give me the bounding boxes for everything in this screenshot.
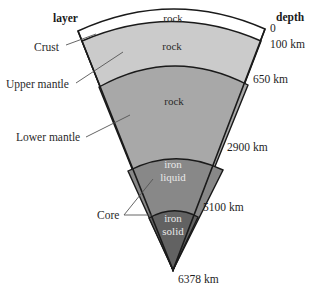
depth-2900km: 2900 km	[227, 141, 268, 153]
upper-mantle-label: Upper mantle	[6, 78, 69, 91]
lower-mantle-label: Lower mantle	[16, 131, 80, 143]
depth-header: depth	[276, 11, 305, 24]
depth-5100km: 5100 km	[203, 201, 244, 213]
earth-structure-diagram: rock rock rock iron liquid iron solid la…	[0, 0, 316, 288]
core-label: Core	[97, 209, 119, 221]
depth-0: 0	[270, 22, 276, 34]
inner-core-material-line2: solid	[162, 225, 184, 237]
outer-core-material-line2: liquid	[160, 171, 186, 183]
crust-material: rock	[163, 12, 183, 24]
outer-core-material-line1: iron	[164, 158, 182, 170]
inner-core-material-line1: iron	[164, 212, 182, 224]
lower-mantle-material: rock	[164, 95, 184, 107]
depth-100km: 100 km	[270, 38, 305, 50]
depth-650km: 650 km	[253, 73, 288, 85]
layer-header: layer	[53, 12, 78, 25]
crust-label: Crust	[34, 41, 60, 53]
depth-6378km: 6378 km	[178, 273, 219, 285]
upper-mantle-material: rock	[162, 40, 182, 52]
